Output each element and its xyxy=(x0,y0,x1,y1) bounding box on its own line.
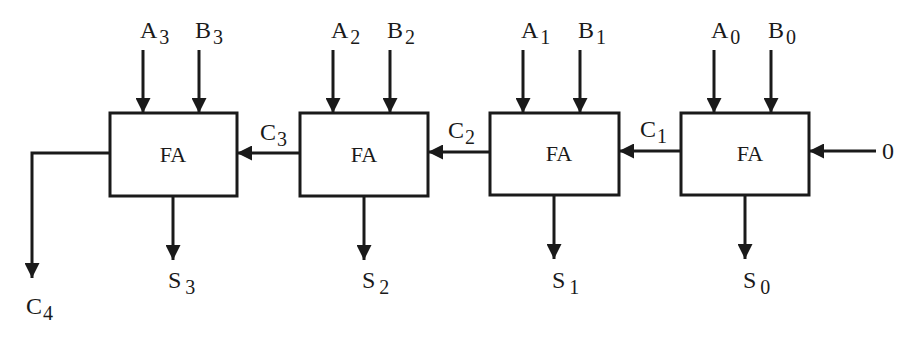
label-b1: B1 xyxy=(578,17,606,48)
carry-out-arrow-c4 xyxy=(32,153,110,278)
fa-label-2: FA xyxy=(351,142,378,167)
fa-label-3: FA xyxy=(160,142,187,167)
label-a2: A2 xyxy=(331,17,360,48)
label-s0: S0 xyxy=(743,267,770,298)
label-b2: B2 xyxy=(387,17,415,48)
label-c3: C3 xyxy=(260,119,287,150)
fa-label-1: FA xyxy=(546,141,573,166)
label-a3: A3 xyxy=(140,17,169,48)
label-b0: B0 xyxy=(768,17,796,48)
label-c1: C1 xyxy=(640,116,667,147)
label-a0: A0 xyxy=(711,17,740,48)
label-c2: C2 xyxy=(448,117,475,148)
full-adder-stage-0: FA A0 B0 S0 xyxy=(681,17,809,298)
label-a1: A1 xyxy=(521,17,550,48)
fa-label-0: FA xyxy=(737,141,764,166)
label-s3: S3 xyxy=(168,267,195,298)
full-adder-stage-1: FA A1 B1 S1 xyxy=(490,17,619,298)
label-s1: S1 xyxy=(552,267,579,298)
label-c4: C4 xyxy=(26,293,53,324)
label-carry-in: 0 xyxy=(882,138,894,164)
label-b3: B3 xyxy=(195,17,223,48)
ripple-carry-adder-diagram: FA A3 B3 S3 C4 C3 FA A2 B2 S2 C2 FA A1 B… xyxy=(0,0,919,341)
label-s2: S2 xyxy=(362,267,389,298)
full-adder-stage-2: FA A2 B2 S2 xyxy=(300,17,428,298)
full-adder-stage-3: FA A3 B3 S3 xyxy=(110,17,237,298)
